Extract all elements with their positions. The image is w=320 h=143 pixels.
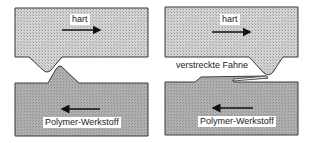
right-bottom-label: Polymer-Werkstoff xyxy=(198,116,276,127)
flag-label: verstreckte Fahne xyxy=(176,60,248,71)
left-top-label: hart xyxy=(70,14,90,25)
left-bottom-label: Polymer-Werkstoff xyxy=(43,117,121,128)
right-top-label: hart xyxy=(220,14,240,25)
